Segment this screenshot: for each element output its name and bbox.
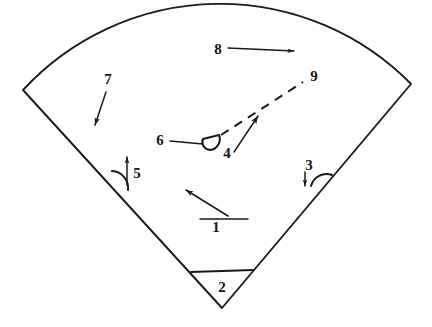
label-7-arrow	[95, 92, 106, 125]
callout-1	[186, 190, 248, 219]
label-1-arrow	[186, 190, 228, 216]
ref-label-3: 3	[305, 157, 313, 173]
label-9-dashed-line	[221, 82, 303, 135]
callout-6	[170, 141, 203, 144]
callout-9	[221, 82, 303, 135]
callout-8	[228, 48, 294, 51]
callout-5	[112, 157, 128, 190]
label-5-angle-arc	[112, 171, 128, 190]
label-8-arrow	[228, 48, 294, 51]
ref-label-6: 6	[156, 132, 164, 148]
callout-7	[95, 92, 106, 125]
ref-label-4: 4	[223, 145, 231, 161]
hook-element	[202, 135, 219, 150]
ref-label-5: 5	[133, 165, 141, 181]
callout-4	[234, 116, 258, 152]
ref-label-9: 9	[310, 68, 318, 84]
ref-label-7: 7	[104, 71, 112, 87]
ref-label-8: 8	[214, 41, 222, 57]
ref-label-2: 2	[218, 279, 226, 295]
label-6-leader	[170, 141, 203, 144]
apex-chord-line	[191, 270, 253, 272]
ref-label-1: 1	[212, 219, 220, 235]
figure-canvas: 1 2 3 4 5 6 7 8 9	[0, 0, 432, 327]
technical-line-drawing: 1 2 3 4 5 6 7 8 9	[0, 0, 432, 327]
hook-outline	[202, 135, 219, 150]
label-4-arrow	[234, 116, 258, 152]
